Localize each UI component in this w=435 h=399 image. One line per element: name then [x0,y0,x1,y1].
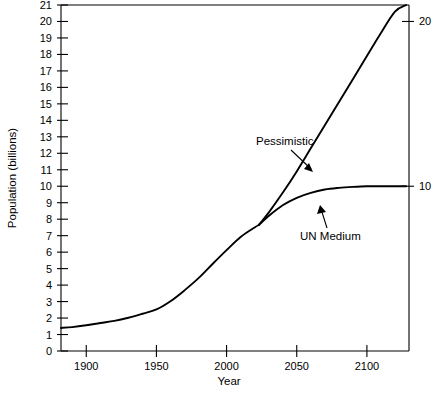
y-tick-label-left: 20 [40,15,52,27]
x-axis: 19001950200020502100 [74,345,379,372]
chart-canvas: 0123456789101112131415161718192021 1020 … [0,0,435,399]
x-tick-label: 2000 [214,360,238,372]
x-tick-label: 1950 [144,360,168,372]
x-tick-label: 2100 [355,360,379,372]
series-layer [61,5,406,328]
y-tick-label-left: 10 [40,180,52,192]
population-projection-chart: 0123456789101112131415161718192021 1020 … [0,0,435,399]
y-tick-label-left: 14 [40,114,52,126]
series-line-pessimistic [259,5,406,225]
y-tick-label-left: 9 [46,197,52,209]
y-tick-label-left: 19 [40,32,52,44]
y-tick-label-left: 17 [40,65,52,77]
y-tick-label-right: 10 [419,180,431,192]
y-tick-label-left: 18 [40,48,52,60]
y-axis-left: 0123456789101112131415161718192021 [40,0,68,357]
y-tick-label-left: 6 [46,246,52,258]
y-tick-label-left: 1 [46,329,52,341]
y-tick-label-left: 16 [40,81,52,93]
annotation-un-medium: UN Medium [300,205,361,242]
y-tick-label-left: 7 [46,230,52,242]
y-tick-label-left: 3 [46,296,52,308]
series-line-un-medium [259,186,406,225]
y-tick-label-left: 11 [41,164,52,176]
x-tick-label: 1900 [74,360,98,372]
y-tick-label-right: 20 [419,15,431,27]
y-tick-label-left: 12 [40,147,52,159]
y-axis-title: Population (billions) [6,128,18,229]
series-line-historical [61,225,259,328]
annotation-pessimistic: Pessimistic [256,135,314,172]
annotation-un-medium-arrowhead [317,205,326,214]
annotation-un-medium-label: UN Medium [300,230,361,242]
x-axis-title: Year [217,375,240,387]
x-tick-label: 2050 [284,360,308,372]
y-tick-label-left: 21 [40,0,52,11]
y-axis-right: 1020 [402,15,431,192]
y-tick-label-left: 2 [46,312,52,324]
y-tick-label-left: 0 [46,345,52,357]
y-tick-label-left: 8 [46,213,52,225]
y-tick-label-left: 5 [46,263,52,275]
annotation-pessimistic-label: Pessimistic [256,135,314,147]
y-tick-label-left: 15 [40,98,52,110]
y-tick-label-left: 4 [46,279,52,291]
y-tick-label-left: 13 [40,131,52,143]
